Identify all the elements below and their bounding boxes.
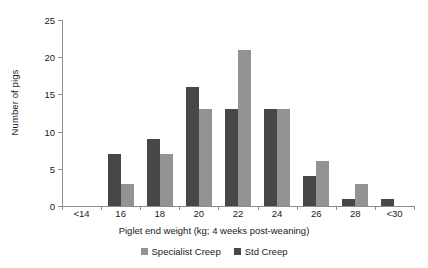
bar-group [69,20,95,206]
y-axis-tick-label: 20 [44,52,55,63]
x-axis-tick-label: <14 [73,208,89,219]
bar-std-creep [108,154,121,206]
y-axis-tick: 25 [62,20,63,21]
x-axis-tick-label: 16 [115,208,126,219]
x-axis-tick-label: 22 [233,208,244,219]
bar-std-creep [147,139,160,206]
y-axis-tick-label: 10 [44,126,55,137]
legend-swatch-icon [141,248,148,255]
plot-area: 0510152025 [62,20,414,206]
y-axis-title: Number of pigs [4,0,26,205]
bar-group [147,20,173,206]
bar-group [381,20,407,206]
x-axis-title: Piglet end weight (kg; 4 weeks post-wean… [0,225,428,236]
y-axis-tick: 10 [62,132,63,133]
bar-std-creep [186,87,199,206]
y-axis-tick: 15 [62,94,63,95]
bar-std-creep [303,176,316,206]
legend-item[interactable]: Specialist Creep [141,246,221,257]
y-axis-tick-label: 0 [50,201,55,212]
bar-std-creep [225,109,238,206]
y-axis-tick: 5 [62,169,63,170]
x-axis-tick-labels: <1416182022242628<30 [62,208,414,224]
x-axis-tick-mark [414,206,415,210]
bar-specialist-creep [160,154,173,206]
bar-std-creep [381,199,394,206]
bar-group [225,20,251,206]
y-axis-tick-mark [58,132,62,133]
x-axis-title-text: Piglet end weight (kg; 4 weeks post-wean… [119,225,310,236]
bar-group [264,20,290,206]
y-axis-tick-label: 15 [44,89,55,100]
bar-std-creep [264,109,277,206]
y-axis-tick-label: 25 [44,15,55,26]
bar-specialist-creep [238,50,251,206]
bar-chart-figure: Number of pigs 0510152025 <1416182022242… [0,0,428,268]
y-axis-tick-label: 5 [50,163,55,174]
bar-group [108,20,134,206]
legend-swatch-icon [234,248,241,255]
legend-item-label: Std Creep [245,246,288,257]
legend-item[interactable]: Std Creep [234,246,288,257]
bar-group [186,20,212,206]
x-axis-line [62,206,414,207]
y-axis-tick-mark [58,169,62,170]
bar-specialist-creep [277,109,290,206]
y-axis-tick: 20 [62,57,63,58]
y-axis-tick-mark [58,57,62,58]
x-axis-tick-label: 24 [272,208,283,219]
bar-specialist-creep [199,109,212,206]
legend-item-label: Specialist Creep [152,246,221,257]
bar-specialist-creep [355,184,368,206]
y-axis-line [62,20,63,206]
x-axis-tick-label: 26 [311,208,322,219]
x-axis-tick-label: 28 [350,208,361,219]
x-axis-tick-label: 18 [154,208,165,219]
y-axis-tick-mark [58,20,62,21]
chart-legend: Specialist CreepStd Creep [0,246,428,257]
bar-group [342,20,368,206]
y-axis-tick-mark [58,94,62,95]
x-axis-tick-label: 20 [194,208,205,219]
bar-specialist-creep [316,161,329,206]
bar-specialist-creep [121,184,134,206]
x-axis-tick-label: <30 [386,208,402,219]
y-axis-title-text: Number of pigs [10,70,21,136]
bar-std-creep [342,199,355,206]
bar-group [303,20,329,206]
